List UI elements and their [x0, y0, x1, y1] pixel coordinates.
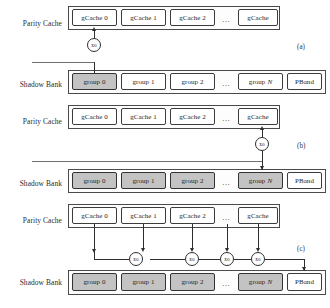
panel-a-group-1[interactable]: group 1: [121, 73, 166, 90]
panel-c-group-1[interactable]: group 1: [121, 273, 166, 291]
panel-a-shadow-ellipsis: …: [222, 79, 231, 88]
panel-b-group-0[interactable]: group 0: [72, 172, 117, 189]
panel-a-parity-ellipsis: …: [222, 15, 231, 24]
panel-c-xor-label-4: xo: [255, 256, 260, 262]
panel-c-arrowhead-pband: [302, 267, 306, 271]
panel-a-pband[interactable]: PBand: [287, 73, 322, 90]
panel-c-chain-link-1: [150, 259, 185, 260]
figure-diagram: Parity Cache Shadow Bank (a) gCache 0 gC…: [0, 0, 330, 308]
panel-c-parity-ellipsis: …: [222, 213, 231, 222]
panel-b-gcache-0[interactable]: gCache 0: [72, 108, 117, 125]
panel-b-parity-cache-label: Parity Cache: [6, 117, 62, 126]
panel-c-group-2-label: group 2: [182, 278, 204, 286]
panel-b-pband[interactable]: PBand: [287, 172, 322, 189]
panel-c-chain-entry: [94, 259, 129, 260]
panel-c-chain-entry-bend: [94, 252, 95, 259]
panel-c-drop-gcache-2: [192, 224, 193, 249]
panel-c-pband[interactable]: PBand: [287, 273, 322, 291]
panel-c-group-0-label: group 0: [84, 278, 106, 286]
panel-b-letter: (b): [297, 142, 305, 150]
panel-b-xor-label: xo: [259, 141, 264, 147]
panel-c-gcache-2[interactable]: gCache 2: [170, 207, 215, 224]
panel-c-group-n[interactable]: groupN: [238, 273, 283, 291]
panel-b-group-2-label: group 2: [182, 177, 204, 185]
panel-b-group-1[interactable]: group 1: [121, 172, 166, 189]
panel-a-parity-cache-label: Parity Cache: [6, 19, 62, 28]
panel-b-parity-ellipsis: …: [222, 114, 231, 123]
panel-b-gcache-2[interactable]: gCache 2: [170, 108, 215, 125]
panel-b-shadow-bank-label: Shadow Bank: [2, 179, 62, 188]
panel-a-group-1-label: group 1: [133, 78, 155, 86]
panel-c-gcache-1-label: gCache 1: [130, 212, 157, 220]
panel-a-group-2-label: group 2: [182, 78, 204, 86]
panel-b-connector-upper: [262, 129, 263, 137]
panel-a-group-2[interactable]: group 2: [170, 73, 215, 90]
panel-a-gcache-0[interactable]: gCache 0: [72, 9, 117, 26]
panel-c-gcache-0[interactable]: gCache 0: [72, 207, 117, 224]
panel-c-group-1-label: group 1: [133, 278, 155, 286]
panel-c-xor-label-2: xo: [189, 256, 194, 262]
panel-b-group-n-label: group: [249, 177, 266, 185]
panel-c-chain-exit: [265, 259, 305, 260]
panel-b-group-0-label: group 0: [84, 177, 106, 185]
panel-c-pband-label: PBand: [295, 278, 314, 286]
panel-c-arrowhead-gcache-1: [141, 248, 145, 252]
panel-a-arrowhead-up: [92, 27, 96, 31]
panel-c-chain-link-3: [234, 259, 251, 260]
panel-a-xor-node[interactable]: xo: [87, 38, 101, 52]
panel-b-gcache-n-label: gCache: [247, 113, 268, 121]
panel-b-xor-node[interactable]: xo: [255, 137, 269, 151]
panel-c-drop-gcache-0: [94, 224, 95, 252]
panel-b-gcache-2-label: gCache 2: [179, 113, 206, 121]
panel-b-gcache-1[interactable]: gCache 1: [121, 108, 166, 125]
panel-a-letter: (a): [297, 43, 305, 51]
panel-b-arrowhead-up: [260, 126, 264, 130]
panel-c-chain-link-2: [199, 259, 220, 260]
panel-c-gcache-1[interactable]: gCache 1: [121, 207, 166, 224]
panel-c-drop-gcache-n: [258, 224, 259, 249]
panel-a-group-0-label: group 0: [84, 78, 106, 86]
panel-b-shadow-ellipsis: …: [222, 178, 231, 187]
panel-b-group-n[interactable]: groupN: [238, 172, 283, 189]
panel-a-group-n-label: group: [249, 78, 266, 86]
panel-a-connector-upper: [94, 30, 95, 38]
panel-c-group-n-label: group: [249, 278, 266, 286]
panel-a-group-0[interactable]: group 0: [72, 73, 117, 90]
panel-a-shadow-bank-label: Shadow Bank: [2, 80, 62, 89]
panel-c-gcache-0-label: gCache 0: [81, 212, 108, 220]
panel-a-gcache-1-label: gCache 1: [130, 14, 157, 22]
panel-c-xor-node-2[interactable]: xo: [185, 252, 199, 266]
panel-c-group-2[interactable]: group 2: [170, 273, 215, 291]
panel-c-shadow-ellipsis: …: [222, 279, 231, 288]
panel-a-feed-line: [32, 62, 94, 63]
panel-c-drop-gcache-1: [143, 224, 144, 249]
panel-c-letter: (c): [297, 245, 305, 253]
panel-b-gcache-n[interactable]: gCache: [238, 108, 278, 125]
panel-c-xor-node-1[interactable]: xo: [129, 252, 143, 266]
panel-c-gcache-n[interactable]: gCache: [238, 207, 278, 224]
panel-c-shadow-bank-label: Shadow Bank: [2, 278, 62, 287]
panel-a-gcache-0-label: gCache 0: [81, 14, 108, 22]
panel-c-xor-node-3[interactable]: xo: [220, 252, 234, 266]
panel-a-xor-label: xo: [91, 42, 96, 48]
panel-c-xor-node-4[interactable]: xo: [251, 252, 265, 266]
panel-b-gcache-0-label: gCache 0: [81, 113, 108, 121]
panel-a-gcache-1[interactable]: gCache 1: [121, 9, 166, 26]
panel-a-gcache-n-label: gCache: [247, 14, 268, 22]
panel-c-group-0[interactable]: group 0: [72, 273, 117, 291]
panel-c-drop-ellipsis: [227, 224, 228, 249]
panel-b-group-n-index: N: [265, 177, 272, 185]
panel-a-gcache-2-label: gCache 2: [179, 14, 206, 22]
panel-a-connector-lower: [94, 62, 95, 73]
panel-c-gcache-2-label: gCache 2: [179, 212, 206, 220]
panel-b-gcache-1-label: gCache 1: [130, 113, 157, 121]
panel-b-group-2[interactable]: group 2: [170, 172, 215, 189]
panel-b-group-1-label: group 1: [133, 177, 155, 185]
panel-a-pband-label: PBand: [295, 78, 314, 86]
panel-b-arrowhead-down: [260, 166, 264, 170]
panel-c-group-n-index: N: [265, 278, 272, 286]
panel-a-gcache-n[interactable]: gCache: [238, 9, 278, 26]
panel-c-xor-label-3: xo: [224, 256, 229, 262]
panel-a-gcache-2[interactable]: gCache 2: [170, 9, 215, 26]
panel-a-group-n[interactable]: groupN: [238, 73, 283, 90]
